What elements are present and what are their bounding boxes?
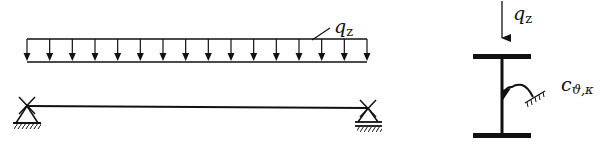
bottom-flange	[473, 133, 531, 138]
arrowhead-icon	[296, 53, 303, 61]
arrowhead-icon	[205, 53, 212, 61]
spring-label: cϑ,κ	[561, 73, 594, 97]
arrowhead-icon	[160, 53, 167, 61]
arrowhead-icon	[182, 53, 189, 61]
arrowhead-icon	[24, 53, 31, 61]
ground-hatch-icon	[357, 127, 382, 132]
distributed-load: qz	[24, 15, 371, 62]
load-leader-line	[312, 28, 330, 40]
arrowhead-icon	[250, 53, 257, 61]
load-label-section: qz	[513, 2, 532, 26]
arrowhead-icon	[341, 53, 348, 61]
load-arrows	[24, 39, 371, 61]
arrowhead-icon	[114, 53, 121, 61]
i-beam-section: qz cϑ,κ	[473, 1, 594, 138]
load-label-beam: qz	[334, 15, 353, 39]
rotational-spring-icon	[502, 85, 545, 107]
ground-hatch-icon	[14, 124, 41, 129]
arrowhead-icon	[137, 53, 144, 61]
diagram-canvas: qz qz	[0, 0, 610, 150]
beam	[27, 106, 367, 108]
arrowhead-icon	[228, 53, 235, 61]
right-roller-support	[355, 100, 382, 132]
arrowhead-icon	[318, 53, 325, 61]
structural-diagram: qz qz	[0, 0, 610, 150]
left-pinned-support	[13, 97, 41, 129]
arrowhead-icon	[92, 53, 99, 61]
arrowhead-icon	[69, 53, 76, 61]
arrowhead-icon	[364, 53, 371, 61]
arrowhead-icon	[46, 53, 53, 61]
arrowhead-icon	[273, 53, 280, 61]
